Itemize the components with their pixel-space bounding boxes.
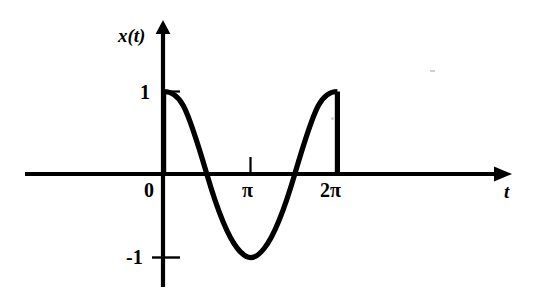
scan-artifact-speck: [430, 70, 435, 72]
y-axis-label: x(t): [118, 26, 145, 45]
y-tick-label-negative-one: -1: [126, 247, 143, 267]
figure-container: x(t) t 1 -1 0 π 2π: [0, 0, 534, 292]
x-axis: [25, 167, 512, 182]
x-tick-label-two-pi: 2π: [320, 180, 341, 200]
y-tick-label-one: 1: [140, 82, 150, 102]
y-axis-arrowhead: [156, 20, 171, 34]
waveform-plot: [0, 0, 534, 292]
scan-artifact-speck: [331, 117, 334, 120]
x-axis-label: t: [504, 182, 509, 201]
x-tick-label-pi: π: [242, 180, 253, 200]
x-axis-arrowhead: [494, 167, 512, 182]
x-tick-label-zero: 0: [144, 180, 154, 200]
